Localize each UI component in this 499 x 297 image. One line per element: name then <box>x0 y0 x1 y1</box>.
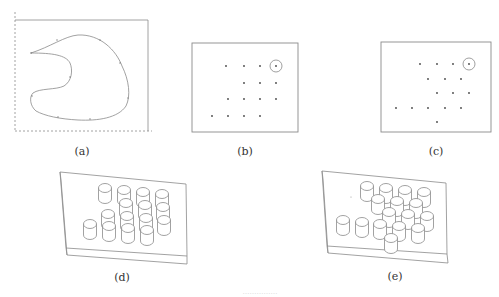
caption-a: (a) <box>74 145 89 158</box>
point-marker <box>243 98 245 100</box>
point-marker <box>275 65 277 67</box>
point-marker <box>436 63 438 65</box>
point-marker <box>468 63 470 65</box>
cylinder-pin <box>356 218 369 238</box>
point-marker <box>225 65 227 67</box>
point-marker <box>259 82 261 84</box>
point-marker <box>460 78 462 80</box>
cylinder-pin <box>337 216 350 236</box>
point-marker <box>444 107 446 109</box>
point-marker <box>436 121 438 123</box>
panel-c-points <box>395 63 470 123</box>
caption-d: (d) <box>114 271 130 284</box>
caption-c: (c) <box>429 145 444 158</box>
caption-e: (e) <box>387 270 402 283</box>
cylinder-pin <box>103 222 116 242</box>
panel-c-drawing <box>381 42 491 132</box>
point-marker <box>243 65 245 67</box>
panel-b-boundary <box>192 43 298 132</box>
cylinder-pin <box>141 226 154 246</box>
panel-c-boundary <box>381 42 491 132</box>
point-marker <box>259 98 261 100</box>
point-marker <box>460 107 462 109</box>
panel-b-drawing <box>192 43 298 132</box>
cylinder-pin <box>412 224 425 244</box>
point-marker <box>468 92 470 94</box>
point-marker <box>211 115 213 117</box>
point-marker <box>227 115 229 117</box>
point-marker <box>259 115 261 117</box>
point-marker <box>452 92 454 94</box>
panel-b-points <box>211 65 277 117</box>
cylinder-pin <box>84 220 97 240</box>
figure-caption-truncated: …………… <box>243 288 278 296</box>
point-marker <box>436 92 438 94</box>
cylinder-pin <box>122 224 135 244</box>
point-marker <box>444 78 446 80</box>
cylinder-pin <box>99 184 112 204</box>
point-marker <box>419 63 421 65</box>
point-marker <box>395 107 397 109</box>
point-marker <box>452 63 454 65</box>
cylinder-pin <box>158 216 171 236</box>
panel-a-drawing <box>15 12 152 132</box>
cylinder-pin <box>385 234 398 254</box>
point-marker <box>427 107 429 109</box>
point-marker <box>243 82 245 84</box>
point-marker <box>259 65 261 67</box>
point-marker <box>411 107 413 109</box>
freeform-contour <box>31 35 129 120</box>
point-marker <box>427 78 429 80</box>
point-marker <box>275 82 277 84</box>
point-marker <box>275 98 277 100</box>
caption-b: (b) <box>237 145 253 158</box>
point-marker <box>243 115 245 117</box>
point-marker <box>227 98 229 100</box>
